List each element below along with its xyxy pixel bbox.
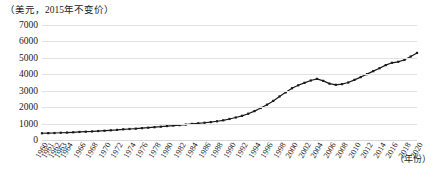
data-point xyxy=(385,64,387,66)
data-point xyxy=(72,131,74,133)
data-point xyxy=(128,128,130,130)
chart-container: （美元，2015年不变价） 01000200030004000500060007… xyxy=(0,0,439,183)
data-point xyxy=(141,127,143,129)
data-point xyxy=(372,70,374,72)
x-axis-tick-1982: 1982 xyxy=(171,141,187,160)
x-axis-tick-2006: 2006 xyxy=(321,141,337,160)
x-axis-tick-1966: 1966 xyxy=(71,141,87,160)
gridline-6000 xyxy=(42,41,417,42)
data-point xyxy=(160,126,162,128)
data-point xyxy=(122,128,124,130)
data-point xyxy=(235,116,237,118)
gridline-2000 xyxy=(42,107,417,108)
x-axis-tick-1978: 1978 xyxy=(146,141,162,160)
y-axis-unit-label: （美元，2015年不变价） xyxy=(5,2,114,16)
data-point xyxy=(353,79,355,81)
gridline-3000 xyxy=(42,91,417,92)
x-axis-tick-1970: 1970 xyxy=(96,141,112,160)
data-point xyxy=(153,126,155,128)
data-point xyxy=(341,83,343,85)
x-axis-tick-1986: 1986 xyxy=(196,141,212,160)
data-point xyxy=(316,78,318,80)
data-point xyxy=(66,131,68,133)
x-axis-title: （年份） xyxy=(395,152,431,165)
data-point xyxy=(222,119,224,121)
data-point xyxy=(166,125,168,127)
data-point xyxy=(328,83,330,85)
data-point xyxy=(135,128,137,130)
data-point xyxy=(335,84,337,86)
x-axis-tick-2002: 2002 xyxy=(296,141,312,160)
x-axis-tick-labels: 1960196119621963196419661968197019721974… xyxy=(42,141,417,183)
data-point xyxy=(47,132,49,134)
y-axis-tick-3000: 3000 xyxy=(19,86,38,96)
data-point xyxy=(241,115,243,117)
data-point xyxy=(253,110,255,112)
data-point xyxy=(266,104,268,106)
data-point xyxy=(347,81,349,83)
x-axis-tick-1974: 1974 xyxy=(121,141,137,160)
gridline-5000 xyxy=(42,58,417,59)
data-point xyxy=(53,132,55,134)
data-point xyxy=(378,67,380,69)
data-point xyxy=(91,130,93,132)
data-point xyxy=(391,62,393,64)
y-axis-tick-6000: 6000 xyxy=(19,36,38,46)
data-point xyxy=(397,61,399,63)
data-point xyxy=(147,127,149,129)
plot-area: 01000200030004000500060007000 xyxy=(42,25,417,140)
data-point xyxy=(297,84,299,86)
data-point xyxy=(103,130,105,132)
data-point xyxy=(278,95,280,97)
gridline-7000 xyxy=(42,25,417,26)
data-point xyxy=(60,132,62,134)
y-axis-tick-5000: 5000 xyxy=(19,53,38,63)
x-axis-tick-1994: 1994 xyxy=(246,141,262,160)
x-axis-tick-1990: 1990 xyxy=(221,141,237,160)
x-axis-tick-2010: 2010 xyxy=(346,141,362,160)
data-point xyxy=(228,118,230,120)
gridline-1000 xyxy=(42,124,417,125)
data-point xyxy=(85,131,87,133)
data-point xyxy=(322,80,324,82)
gridline-4000 xyxy=(42,74,417,75)
y-axis-tick-7000: 7000 xyxy=(19,20,38,30)
data-point xyxy=(360,76,362,78)
x-axis-tick-2014: 2014 xyxy=(371,141,387,160)
data-point xyxy=(97,130,99,132)
data-point xyxy=(403,59,405,61)
data-point xyxy=(78,131,80,133)
data-point xyxy=(310,79,312,81)
data-point xyxy=(216,120,218,122)
data-point xyxy=(110,129,112,131)
data-point xyxy=(172,124,174,126)
x-axis-tick-1998: 1998 xyxy=(271,141,287,160)
data-point xyxy=(303,82,305,84)
y-axis-tick-0: 0 xyxy=(33,135,38,145)
y-axis-tick-2000: 2000 xyxy=(19,102,38,112)
data-point xyxy=(416,52,418,54)
y-axis-tick-1000: 1000 xyxy=(19,119,38,129)
data-point xyxy=(41,132,43,134)
y-axis-tick-4000: 4000 xyxy=(19,69,38,79)
data-point xyxy=(291,87,293,89)
data-point xyxy=(116,129,118,131)
data-point xyxy=(247,113,249,115)
data-point xyxy=(272,100,274,102)
